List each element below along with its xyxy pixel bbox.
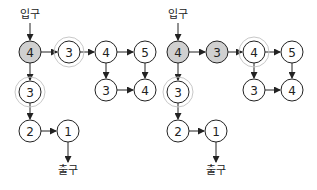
graph-node: 4 [167,41,189,63]
node-value: 3 [26,86,34,100]
node-value: 4 [141,84,149,98]
node-value: 3 [102,84,110,98]
node-value: 1 [64,125,72,139]
node-value: 4 [174,46,182,60]
node-value: 3 [250,84,258,98]
node-value: 3 [65,46,73,60]
graph-node: 5 [134,41,156,63]
graph-node: 4 [95,41,117,63]
node-value: 4 [288,84,296,98]
graph-node: 3 [163,77,193,107]
node-value: 5 [288,46,296,60]
exit-label: 출구 [206,164,226,177]
graph-node: 4 [134,79,156,101]
graph-node: 2 [167,120,189,142]
node-value: 4 [26,46,34,60]
exit-label: 출구 [58,164,78,177]
diagram-1: 입구출구434534321 [15,8,156,177]
graph-node: 3 [54,37,84,67]
graph-node: 4 [281,79,303,101]
node-value: 3 [213,46,221,60]
node-value: 2 [174,125,182,139]
diagram-layer: 입구출구434534321입구출구434534321 [15,8,303,177]
entry-label: 입구 [20,8,40,21]
entry-label: 입구 [168,8,188,21]
graph-node: 3 [15,77,45,107]
graph-node: 5 [281,41,303,63]
graph-node: 4 [239,37,269,67]
node-value: 1 [212,125,220,139]
graph-node: 2 [19,120,41,142]
node-value: 4 [102,46,110,60]
graph-node: 3 [206,41,228,63]
node-value: 2 [26,125,34,139]
graph-node: 1 [57,120,79,142]
node-value: 4 [250,46,258,60]
node-value: 3 [174,86,182,100]
graph-node: 1 [205,120,227,142]
graph-node: 4 [19,41,41,63]
node-value: 5 [141,46,149,60]
graph-diagrams: 입구출구434534321입구출구434534321 [0,0,317,190]
diagram-2: 입구출구434534321 [163,8,303,177]
graph-node: 3 [243,79,265,101]
graph-node: 3 [95,79,117,101]
